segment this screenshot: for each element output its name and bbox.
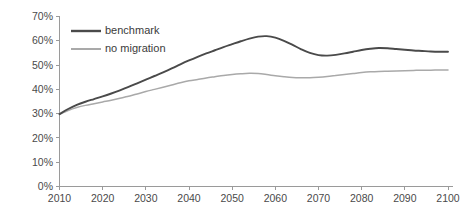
x-tick-label: 2050 — [220, 192, 244, 204]
y-tick-label: 20% — [32, 132, 53, 144]
x-tick-label: 2070 — [307, 192, 331, 204]
legend-label-benchmark: benchmark — [105, 24, 160, 36]
y-tick-label: 10% — [32, 156, 53, 168]
y-tick-label: 40% — [32, 83, 53, 95]
y-tick-label: 60% — [32, 34, 53, 46]
y-tick-label: 70% — [32, 10, 53, 22]
chart-canvas: 0%10%20%30%40%50%60%70% 2010202020302040… — [0, 0, 461, 217]
legend-label-no-migration: no migration — [105, 42, 166, 54]
line-chart: 0%10%20%30%40%50%60%70% 2010202020302040… — [0, 0, 461, 217]
x-tick-label: 2080 — [350, 192, 374, 204]
x-tick-label: 2060 — [264, 192, 288, 204]
y-tick-label: 50% — [32, 59, 53, 71]
y-tick-label: 30% — [32, 107, 53, 119]
y-tick-label: 0% — [38, 180, 53, 192]
x-tick-label: 2100 — [436, 192, 460, 204]
x-tick-label: 2090 — [393, 192, 417, 204]
x-tick-label: 2040 — [177, 192, 201, 204]
x-tick-label: 2020 — [91, 192, 115, 204]
x-tick-label: 2030 — [134, 192, 158, 204]
x-tick-label: 2010 — [48, 192, 72, 204]
